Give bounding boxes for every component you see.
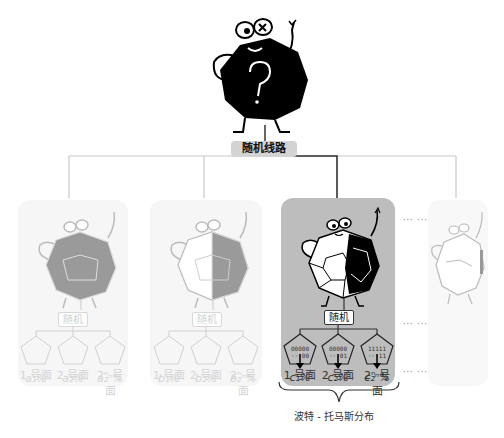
random-label: 随机 — [58, 312, 88, 327]
ellipsis-mid: ··· ··· — [403, 320, 428, 329]
probability-label: b₂ⁿ% — [223, 372, 263, 385]
random-label: 随机 — [324, 310, 354, 325]
arrow-down-icons — [281, 352, 395, 372]
random-label: 随机 — [192, 312, 222, 327]
ellipsis-bottom: ··· ··· — [403, 368, 428, 377]
root-mascot-question-icon — [200, 0, 310, 145]
face-code: 00000 — [291, 345, 309, 352]
dodecahedron-mascot-icon — [428, 200, 488, 310]
probability-label: a₂ⁿ% — [90, 372, 130, 385]
porter-thomas-caption: 波特 - 托马斯分布 — [294, 408, 374, 423]
panel-b: 随机 1 号面 2 号面 2ⁿ 号面 — [150, 200, 262, 386]
panel-d — [428, 200, 488, 386]
svg-text:11111: 11111 — [368, 345, 386, 352]
dodecahedron-mascot-icon — [291, 198, 386, 310]
ellipsis-top: ··· ··· — [403, 216, 428, 225]
dodecahedron-mascot-icon — [28, 200, 123, 310]
svg-text:00000: 00000 — [329, 345, 347, 352]
probability-label: a₂% — [53, 372, 93, 385]
probability-label: b₂% — [186, 372, 226, 385]
probability-label: a₁% — [16, 372, 56, 385]
random-circuit-label: 随机线路 — [231, 141, 297, 157]
panel-a: 随机 1 号面 2 号面 2ⁿ 号面 — [18, 200, 128, 386]
probability-label: b₁% — [149, 372, 189, 385]
curly-brace-icon — [275, 380, 403, 408]
dodecahedron-mascot-icon — [160, 200, 255, 310]
